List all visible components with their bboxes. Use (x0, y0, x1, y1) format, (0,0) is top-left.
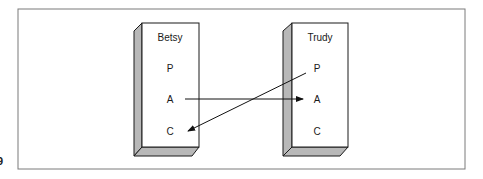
figure-number-mark: 9 (0, 155, 3, 167)
betsy-box-side-face (134, 23, 142, 156)
trudy-box-side-face (283, 23, 292, 156)
trudy-slot-a: A (314, 95, 321, 105)
trudy-slot-c: C (313, 127, 320, 137)
trudy-box-bottom-face (283, 147, 348, 156)
diagram-canvas (0, 0, 483, 179)
trudy-slot-p: P (314, 64, 321, 74)
betsy-slot-a: A (167, 95, 174, 105)
trudy-title: Trudy (307, 33, 332, 43)
betsy-slot-c: C (166, 127, 173, 137)
betsy-title: Betsy (157, 33, 182, 43)
figure-frame (18, 9, 465, 169)
betsy-box-bottom-face (134, 147, 199, 156)
betsy-slot-p: P (167, 64, 174, 74)
